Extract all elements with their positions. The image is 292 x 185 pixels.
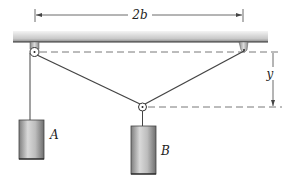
- cable-right: [145, 51, 244, 104]
- block-b: [131, 126, 156, 174]
- height-label: y: [266, 67, 274, 81]
- left-pulley: [30, 42, 39, 57]
- width-dimension: 2b: [35, 8, 243, 22]
- pulley-diagram: 2b y A B: [0, 0, 292, 185]
- block-a: [19, 120, 44, 159]
- block-b-label: B: [160, 144, 170, 158]
- width-label: 2b: [131, 8, 147, 22]
- ceiling: [13, 31, 268, 42]
- right-anchor: [239, 42, 248, 52]
- cable-left: [37, 55, 140, 104]
- height-dimension: y: [266, 53, 275, 106]
- center-pulley: [139, 103, 147, 126]
- block-a-label: A: [49, 128, 59, 142]
